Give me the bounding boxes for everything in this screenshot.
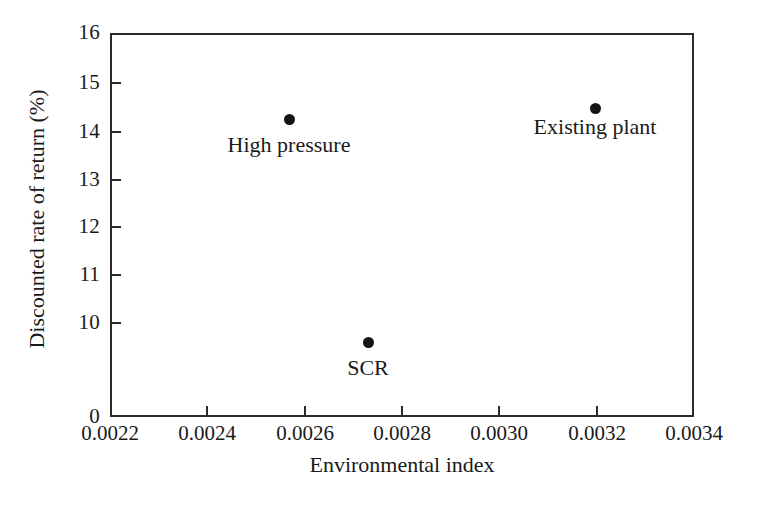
y-tick-mark: [110, 82, 121, 84]
x-axis-title: Environmental index: [110, 452, 694, 478]
data-point-label-existing-plant: Existing plant: [465, 115, 725, 139]
data-point-label-high-pressure: High pressure: [159, 133, 419, 157]
x-tick-mark: [401, 406, 403, 417]
data-point-label-scr: SCR: [238, 356, 498, 380]
data-point-scr[interactable]: [363, 337, 374, 348]
y-axis-title: Discounted rate of return (%): [24, 19, 50, 419]
x-tick-mark: [206, 406, 208, 417]
x-tick-mark: [596, 406, 598, 417]
data-point-existing-plant[interactable]: [590, 103, 601, 114]
x-tick-mark: [498, 406, 500, 417]
y-tick-mark: [110, 179, 121, 181]
scatter-chart-figure: 161514131211100 0.00220.00240.00260.0028…: [0, 0, 759, 510]
x-tick-label: 0.0034: [634, 422, 754, 444]
y-tick-mark: [110, 226, 121, 228]
y-tick-mark: [110, 131, 121, 133]
y-tick-mark: [110, 274, 121, 276]
x-tick-mark: [304, 406, 306, 417]
y-tick-mark: [110, 322, 121, 324]
data-point-high-pressure[interactable]: [284, 114, 295, 125]
